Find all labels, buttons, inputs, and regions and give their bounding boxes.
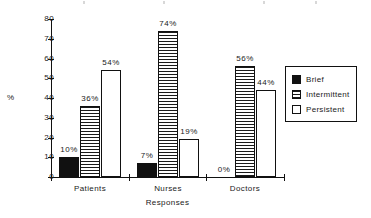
bar-value-label: 54% — [95, 59, 127, 67]
x-axis-category-label: Patients — [51, 184, 129, 193]
bar-patients-brief — [59, 157, 79, 177]
legend-item-brief: Brief — [292, 72, 356, 87]
legend-item-label: Brief — [306, 75, 324, 84]
x-axis-tick — [129, 174, 130, 181]
bar-nurses-brief — [137, 163, 157, 177]
x-axis-title: Responses — [0, 198, 335, 207]
bar-nurses-persistent — [179, 139, 199, 177]
legend-item-intermittent: Intermittent — [292, 87, 356, 102]
x-axis-category-label: Doctors — [206, 184, 284, 193]
legend-item-label: Intermittent — [306, 90, 350, 99]
striped-swatch-icon — [292, 90, 301, 99]
bar-value-label: 56% — [229, 55, 261, 63]
bar-value-label: 74% — [152, 20, 184, 28]
x-axis-tick — [51, 174, 52, 181]
bar-patients-intermittent — [80, 106, 100, 177]
scan-artifact — [315, 1, 317, 4]
y-axis-tick-label: 40 — [28, 94, 54, 102]
bar-value-label: 44% — [250, 79, 282, 87]
y-axis-title: % — [7, 94, 15, 102]
bar-chart: 01020304050607080 % 10%36%54%7%74%19%0%5… — [0, 0, 371, 218]
solid-black-swatch-icon — [292, 75, 301, 84]
white-swatch-icon — [292, 105, 301, 114]
y-axis-tick-label: 30 — [28, 114, 54, 122]
legend-item-label: Persistent — [306, 105, 345, 114]
bar-nurses-intermittent — [158, 31, 178, 177]
bar-patients-persistent — [101, 70, 121, 177]
y-axis-tick-label: 80 — [28, 15, 54, 23]
scan-artifact — [163, 1, 165, 4]
scan-artifact — [83, 1, 85, 4]
legend-item-persistent: Persistent — [292, 102, 356, 117]
scan-artifact — [263, 1, 265, 4]
x-axis-tick — [206, 174, 207, 181]
y-axis-tick-label: 10 — [28, 153, 54, 161]
chart-legend: BriefIntermittentPersistent — [285, 66, 357, 122]
bar-doctors-persistent — [256, 90, 276, 177]
x-axis-line — [51, 177, 284, 178]
bar-value-label: 19% — [173, 128, 205, 136]
y-axis-tick-label: 60 — [28, 55, 54, 63]
x-axis-category-label: Nurses — [129, 184, 207, 193]
y-axis-tick-label: 50 — [28, 74, 54, 82]
x-axis-tick — [284, 174, 285, 181]
y-axis-tick-label: 20 — [28, 134, 54, 142]
y-axis-tick-label: 70 — [28, 35, 54, 43]
